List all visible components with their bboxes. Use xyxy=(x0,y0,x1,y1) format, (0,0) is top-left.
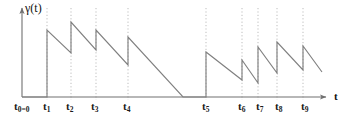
tick-label-t3: t3 xyxy=(91,101,98,112)
tick-label-t9: t9 xyxy=(301,101,308,112)
tick-label-subscript: 3 xyxy=(95,105,99,114)
tick-label-subscript: 0=0 xyxy=(18,105,30,114)
tick-label-subscript: 7 xyxy=(260,105,264,114)
tick-label-subscript: 8 xyxy=(279,105,283,114)
tick-label-t7: t7 xyxy=(256,101,263,112)
gamma-signal-curve xyxy=(22,22,322,97)
tick-label-t1: t1 xyxy=(43,101,50,112)
tick-label-subscript: 4 xyxy=(127,105,131,114)
tick-label-subscript: 6 xyxy=(242,105,246,114)
tick-label-t5: t5 xyxy=(202,101,209,112)
sawtooth-signal-figure: γ(t) t t0=0t1t2t3t4t5t6t7t8t9 xyxy=(0,0,343,125)
tick-label-subscript: 1 xyxy=(47,105,51,114)
plot-canvas xyxy=(0,0,343,125)
tick-label-t2: t2 xyxy=(66,101,73,112)
y-axis-label: γ(t) xyxy=(25,2,42,14)
tick-label-t6: t6 xyxy=(238,101,245,112)
tick-label-t0: t0=0 xyxy=(14,101,29,112)
tick-label-t4: t4 xyxy=(123,101,130,112)
vertical-guide-lines xyxy=(47,8,303,100)
tick-label-subscript: 2 xyxy=(70,105,74,114)
tick-label-t8: t8 xyxy=(275,101,282,112)
tick-label-subscript: 9 xyxy=(305,105,309,114)
x-axis-label: t xyxy=(334,91,338,102)
tick-label-subscript: 5 xyxy=(206,105,210,114)
